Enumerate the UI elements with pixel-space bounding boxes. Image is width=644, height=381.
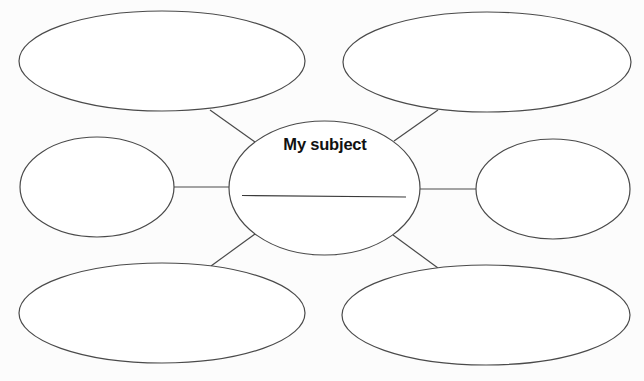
- mind-map-worksheet: My subject: [0, 0, 644, 381]
- bubble-bottom-right[interactable]: [342, 265, 630, 365]
- connector-bottom-right: [393, 235, 438, 268]
- mind-map-diagram: My subject: [0, 0, 644, 381]
- bubble-top-left[interactable]: [19, 11, 305, 111]
- bubble-bottom-left[interactable]: [19, 263, 305, 363]
- bubble-top-right[interactable]: [343, 12, 631, 112]
- bubble-right[interactable]: [476, 139, 630, 239]
- connector-top-right: [394, 110, 438, 141]
- center-title: My subject: [283, 135, 367, 153]
- bubble-left[interactable]: [20, 137, 174, 237]
- connector-bottom-left: [211, 234, 255, 266]
- connector-top-left: [210, 110, 255, 142]
